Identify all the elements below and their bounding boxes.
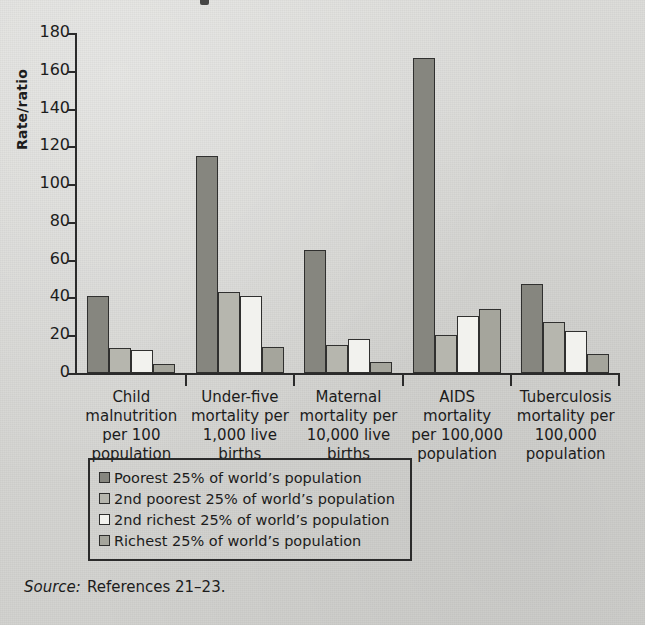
y-axis-tick-label: 100 (39, 173, 70, 192)
x-axis-group-tick (510, 375, 512, 386)
y-axis-tick-label: 60 (50, 249, 70, 268)
legend-item: Poorest 25% of world’s population (99, 467, 401, 488)
bar (109, 348, 131, 373)
y-axis-tick-label: 20 (50, 324, 70, 343)
bar (218, 292, 240, 373)
x-axis-group-tick (293, 375, 295, 386)
legend-item-label: 2nd poorest 25% of world’s population (114, 491, 395, 507)
y-axis-tick-label: 140 (39, 98, 70, 117)
y-axis-tick-label: 120 (39, 135, 70, 154)
bar (370, 362, 392, 373)
y-axis-tick-mark (68, 335, 77, 337)
y-axis-tick-mark (68, 222, 77, 224)
bar (326, 345, 348, 373)
bar (348, 339, 370, 373)
y-axis-tick-mark (68, 146, 77, 148)
bar (457, 316, 479, 373)
y-axis-tick-label: 40 (50, 286, 70, 305)
x-axis-group-tick (618, 375, 620, 386)
y-axis-tick-label: 180 (39, 22, 70, 41)
legend-item-label: Poorest 25% of world’s population (114, 470, 362, 486)
y-axis-tick-mark (68, 260, 77, 262)
bar (413, 58, 435, 373)
x-axis-category-label: Under-five mortality per 1,000 live birt… (182, 388, 299, 464)
y-axis-tick-label: 80 (50, 211, 70, 230)
legend-item: Richest 25% of world’s population (99, 530, 401, 551)
y-axis-tick-label: 0 (60, 362, 70, 381)
legend-item-label: 2nd richest 25% of world’s population (114, 512, 389, 528)
x-axis-line (75, 373, 620, 375)
legend-swatch (99, 514, 110, 525)
source-note: Source:References 21–23. (24, 578, 225, 596)
y-axis-tick-mark (68, 373, 77, 375)
legend-item-label: Richest 25% of world’s population (114, 533, 361, 549)
bar (543, 322, 565, 373)
x-axis-category-label: Maternal mortality per 10,000 live birth… (290, 388, 407, 464)
y-axis-line (75, 33, 77, 375)
legend-swatch (99, 493, 110, 504)
bar (587, 354, 609, 373)
x-axis-category-label: Tuberculosis mortality per 100,000 popul… (507, 388, 624, 464)
y-axis-tick-mark (68, 109, 77, 111)
source-text: References 21–23. (87, 578, 226, 596)
y-axis-tick-mark (68, 71, 77, 73)
bar (521, 284, 543, 373)
x-axis-group-tick (185, 375, 187, 386)
bar (87, 296, 109, 373)
source-label: Source: (24, 578, 81, 596)
x-axis-group-tick (402, 375, 404, 386)
legend-swatch (99, 535, 110, 546)
x-axis-category-label: Child malnutrition per 100 population (73, 388, 190, 464)
bar (262, 347, 284, 373)
chart-legend: Poorest 25% of world’s population2nd poo… (88, 458, 412, 561)
bar (240, 296, 262, 373)
y-axis-tick-mark (68, 184, 77, 186)
legend-swatch (99, 472, 110, 483)
x-axis-category-label: AIDS mortality per 100,000 population (399, 388, 516, 464)
bar (131, 350, 153, 373)
bar (565, 331, 587, 373)
legend-item: 2nd poorest 25% of world’s population (99, 488, 401, 509)
y-axis-tick-mark (68, 297, 77, 299)
bar (479, 309, 501, 373)
y-axis-tick-mark (68, 33, 77, 35)
legend-item: 2nd richest 25% of world’s population (99, 509, 401, 530)
y-axis-label: Rate/ratio (14, 69, 30, 150)
bar (196, 156, 218, 373)
y-axis-tick-label: 160 (39, 60, 70, 79)
bar (153, 364, 175, 373)
bar (435, 335, 457, 373)
bar (304, 250, 326, 373)
